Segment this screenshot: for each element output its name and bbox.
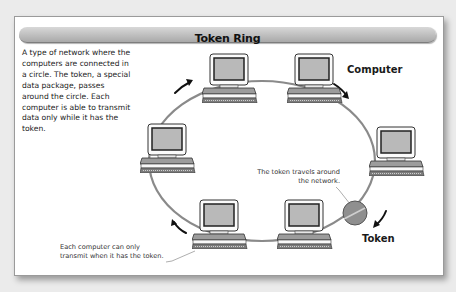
computer-icon-left xyxy=(140,123,196,173)
computer-icon-top-left xyxy=(202,53,258,103)
computer-icon-bottom-left xyxy=(192,199,248,249)
token-label: Token xyxy=(362,233,395,244)
computer-icon-right xyxy=(369,126,425,176)
arrow-top-left-icon xyxy=(175,82,190,93)
transmit-callout: Each computer can only transmit when it … xyxy=(60,243,164,261)
computer-icon-top-right xyxy=(287,53,343,103)
computer-icon-bottom-right xyxy=(277,199,333,249)
token-callout-line xyxy=(336,187,350,204)
token-travels-callout: The token travels around the network. xyxy=(252,168,340,186)
computer-label: Computer xyxy=(347,64,402,75)
transmit-callout-line xyxy=(166,251,195,262)
